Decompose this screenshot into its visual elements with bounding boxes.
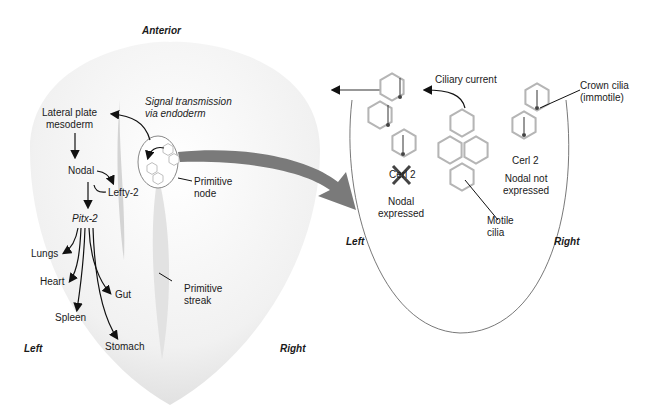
anterior-label: Anterior (142, 25, 181, 37)
motile-cell-cluster (438, 109, 487, 190)
pitx2-label: Pitx-2 (72, 213, 98, 225)
organ-spleen: Spleen (55, 312, 86, 324)
cerl2-right-label: Cerl 2 (512, 155, 539, 167)
cerl2-left-label: Cerl 2 (389, 169, 416, 181)
primitive-node-label: Primitive node (194, 176, 232, 200)
organ-gut: Gut (115, 289, 131, 301)
right-cell-cluster (512, 83, 580, 138)
nodal-label: Nodal (68, 165, 94, 177)
node-right-label: Right (554, 236, 580, 248)
node-left-label: Left (346, 236, 364, 248)
lateral-plate-label: Lateral plate mesoderm (42, 107, 97, 131)
organ-lungs: Lungs (31, 248, 58, 260)
embryo-left-label: Left (24, 343, 42, 355)
diagram-canvas (0, 0, 654, 419)
signal-transmission-label: Signal transmission via endoderm (145, 96, 232, 120)
lefty2-label: Lefty-2 (108, 187, 139, 199)
organ-heart: Heart (40, 276, 64, 288)
primitive-streak-label: Primitive streak (184, 283, 222, 307)
motile-cilia-label: Motile cilia (487, 215, 514, 239)
left-cell-cluster (368, 73, 415, 156)
nodal-expressed-label: Nodal expressed (378, 196, 424, 220)
embryo-right-label: Right (280, 343, 306, 355)
crown-cilia-label: Crown cilia (immotile) (580, 80, 629, 104)
organ-stomach: Stomach (105, 341, 144, 353)
ciliary-current-label: Ciliary current (435, 74, 497, 86)
nodal-not-expressed-label: Nodal not expressed (503, 173, 549, 197)
